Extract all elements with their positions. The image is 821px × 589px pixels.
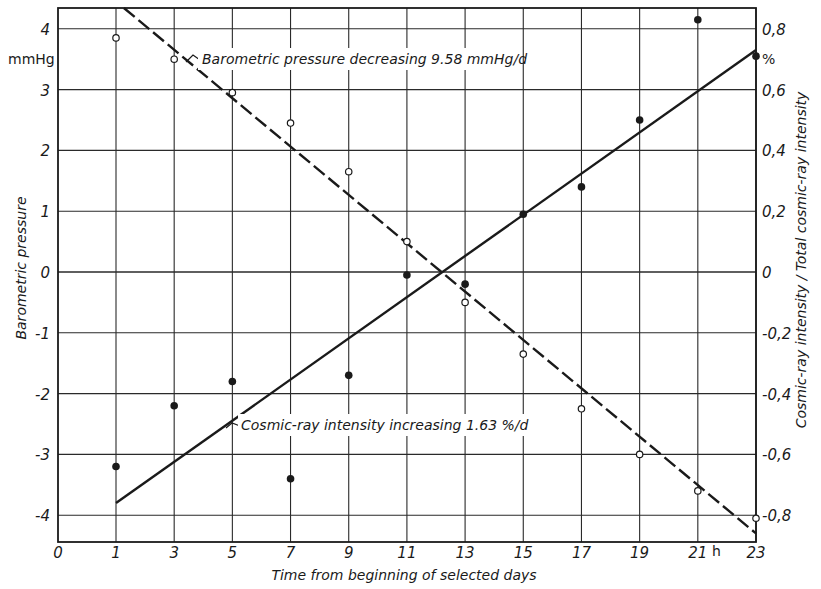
x-tick-label: 21: [688, 544, 707, 562]
x-unit: h: [712, 543, 721, 559]
pressure-point: [462, 299, 468, 305]
cosmic-point: [519, 210, 527, 218]
x-tick-label: 15: [514, 544, 533, 562]
annotation-cosmic: Cosmic-ray intensity increasing 1.63 %/d: [226, 414, 544, 436]
y-right-tick-label: 0,2: [762, 203, 786, 221]
y-left-tick-label: -4: [35, 507, 50, 525]
x-tick-label: 11: [397, 544, 416, 562]
y-right-tick-label: -0,2: [762, 325, 791, 343]
y-left-tick-label: 4: [40, 21, 50, 39]
pressure-point: [287, 120, 293, 126]
y-left-tick-label: 1: [40, 203, 50, 221]
pressure-point: [695, 488, 701, 494]
pressure-point: [113, 35, 119, 41]
cosmic-point: [112, 463, 120, 471]
cosmic-point: [752, 52, 760, 60]
annotation-pressure: Barometric pressure decreasing 9.58 mmHg…: [186, 48, 527, 70]
y-right-tick-label: 0,8: [762, 21, 786, 39]
y-right-tick-label: -0,4: [762, 386, 791, 404]
y-right-tick-label: 0: [762, 264, 772, 282]
y-right-tick-label: -0,6: [762, 446, 791, 464]
y-left-tick-label: 0: [40, 264, 50, 282]
x-tick-label: 19: [630, 544, 649, 562]
pressure-point: [520, 351, 526, 357]
pressure-point: [404, 238, 410, 244]
y-left-tick-label: -2: [35, 386, 50, 404]
y-left-tick-label: -3: [35, 446, 50, 464]
y-left-tick-label: 3: [40, 82, 50, 100]
cosmic-point: [403, 271, 411, 279]
pressure-point: [636, 451, 642, 457]
pressure-point: [346, 168, 352, 174]
y-right-tick-label: -0,8: [762, 507, 791, 525]
pressure-point: [171, 56, 177, 62]
cosmic-point: [636, 116, 644, 124]
y-right-tick-label: 0,4: [762, 142, 786, 160]
x-tick-label: 7: [286, 544, 296, 562]
y-right-tick-label: 0,6: [762, 82, 786, 100]
pressure-point: [229, 89, 235, 95]
y-left-tick-label: -1: [35, 325, 50, 343]
pressure-point: [753, 515, 759, 521]
annotation-cosmic-text: Cosmic-ray intensity increasing 1.63 %/d: [241, 417, 529, 433]
x-tick-label: 9: [344, 544, 354, 562]
pressure-point: [578, 406, 584, 412]
x-axis-title: Time from beginning of selected days: [271, 567, 536, 583]
y-left-unit: mmHg: [8, 51, 55, 67]
y-left-tick-label: 2: [40, 142, 50, 160]
x-tick-label: 1: [111, 544, 121, 562]
x-tick-label: 13: [456, 544, 475, 562]
chart: 43210-1-2-3-40,80,60,40,20-0,2-0,4-0,6-0…: [0, 0, 821, 589]
cosmic-point: [170, 402, 178, 410]
x-tick-label: 17: [572, 544, 592, 562]
cosmic-point: [345, 372, 353, 380]
cosmic-point: [578, 183, 586, 191]
x-tick-label: 5: [228, 544, 238, 562]
x-tick-label: 23: [746, 544, 765, 562]
cosmic-point: [229, 378, 237, 386]
x-tick-label: 0: [53, 544, 63, 562]
cosmic-point: [461, 280, 469, 288]
cosmic-point: [694, 16, 702, 24]
x-tick-label: 3: [169, 544, 179, 562]
cosmic-point: [287, 475, 295, 483]
y-right-axis-title: Cosmic-ray intensity / Total cosmic-ray …: [793, 91, 809, 428]
y-right-unit: %: [762, 51, 775, 67]
annotation-pressure-text: Barometric pressure decreasing 9.58 mmHg…: [202, 51, 527, 67]
y-left-axis-title: Barometric pressure: [13, 196, 29, 339]
